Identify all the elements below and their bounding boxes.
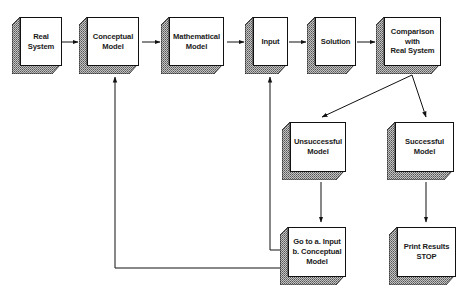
node-label: Solution xyxy=(321,37,351,47)
node-go-to: Go to a. Input b. Conceptual Model xyxy=(280,227,346,285)
arrow-comparison-to-unsuccessful xyxy=(322,75,412,117)
node-label: Comparison with Real System xyxy=(390,27,434,57)
node-label: Print Results STOP xyxy=(404,242,450,262)
node-print-results: Print Results STOP xyxy=(389,227,456,285)
node-solution: Solution xyxy=(307,17,356,74)
arrow-comparison-to-successful xyxy=(412,75,426,117)
node-label: Go to a. Input b. Conceptual Model xyxy=(293,237,342,267)
node-label: Conceptual Model xyxy=(93,32,133,52)
node-conceptual-model: Conceptual Model xyxy=(79,17,139,74)
node-label: Real System xyxy=(28,32,54,52)
node-label: Input xyxy=(261,37,279,47)
node-mathematical-model: Mathematical Model xyxy=(161,17,224,74)
node-label: Unsuccessful Model xyxy=(294,137,342,157)
node-label: Successful Model xyxy=(405,137,444,157)
node-comparison: Comparison with Real System xyxy=(376,17,441,74)
arrow-goto-to-conceptual xyxy=(115,77,280,268)
node-label: Mathematical Model xyxy=(173,32,220,52)
node-input: Input xyxy=(245,17,288,74)
node-unsuccessful-model: Unsuccessful Model xyxy=(282,122,346,180)
node-real-system: Real System xyxy=(12,17,62,74)
node-successful-model: Successful Model xyxy=(387,122,454,180)
arrow-goto-to-input xyxy=(270,77,280,250)
